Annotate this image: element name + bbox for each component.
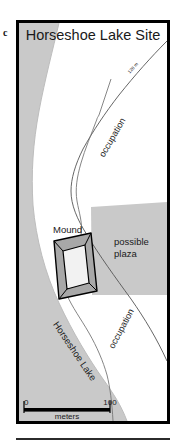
mound-symbol (53, 87, 97, 299)
figure-bottom-rule (16, 438, 170, 440)
scale-bar-max-label: 100 (103, 398, 117, 407)
occupation-boundary-line (71, 41, 167, 361)
scale-bar-units-label: meters (55, 412, 79, 421)
map-frame: Horseshoe Lake Site 128 m occupation Mou… (16, 20, 170, 424)
plaza-label-line1: possible (114, 236, 149, 247)
occupation-label-upper: occupation (97, 116, 127, 159)
stream-line-upper (97, 79, 111, 119)
mound-summit (63, 245, 89, 289)
scale-bar-min-label: 0 (24, 398, 29, 407)
occupation-label-lower: occupation (107, 307, 136, 350)
figure-panel: c (0, 0, 174, 446)
mound-label: Mound (53, 224, 82, 235)
plaza-label-line2: plaza (114, 248, 137, 259)
map-title: Horseshoe Lake Site (26, 27, 161, 43)
site-map: Horseshoe Lake Site 128 m occupation Mou… (19, 23, 167, 421)
panel-letter: c (3, 28, 7, 38)
